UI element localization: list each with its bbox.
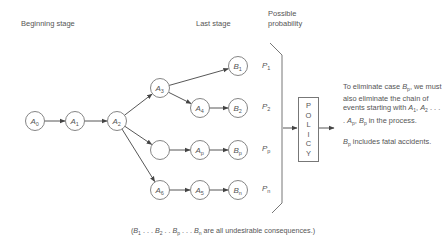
- edge-A2-A3: [125, 94, 153, 115]
- footer-text: . . .: [141, 226, 155, 235]
- note-paragraph-1: To eliminate case Bp, we must also elimi…: [343, 82, 443, 128]
- probability-label-2: P2: [262, 102, 270, 112]
- edge-A2-A6: [122, 129, 155, 181]
- probability-label-1: P1: [262, 61, 270, 71]
- note-text: To eliminate case: [343, 82, 402, 91]
- policy-box: P O L I C Y: [298, 97, 319, 162]
- node-Bn: Bn: [229, 181, 248, 200]
- probability-bracket: [270, 43, 282, 213]
- policy-letter: C: [306, 139, 311, 149]
- node-B2: B2: [229, 99, 248, 118]
- node-A0: A0: [26, 112, 45, 131]
- possible-probability-label-line1: Possible: [268, 9, 296, 18]
- footer-text: are all undesirable consequences.): [202, 226, 315, 235]
- edge-A3-B1: [169, 69, 228, 86]
- nodes-group: A0A1A2A3A4ApA6A5B1B2BpBn: [26, 57, 248, 200]
- policy-letter: O: [306, 111, 312, 121]
- node-A2: A2: [108, 112, 127, 131]
- footer-caption: (B1 . . . B2 . . Bp . . . Bn are all und…: [0, 226, 446, 236]
- policy-letter: Y: [306, 149, 311, 159]
- explanation-note: To eliminate case Bp, we must also elimi…: [343, 82, 443, 159]
- policy-letter: L: [306, 120, 310, 130]
- probability-label-p: Pp: [262, 144, 270, 154]
- last-stage-label: Last stage: [196, 19, 231, 28]
- possible-probability-label-line2: probability: [268, 19, 302, 28]
- policy-letter: I: [307, 130, 309, 140]
- probability-label-n: Pn: [262, 184, 270, 194]
- edge-A2-empty: [125, 126, 152, 144]
- beginning-stage-label: Beginning stage: [21, 19, 75, 28]
- node-empty: [151, 141, 170, 160]
- node-A1: A1: [66, 112, 85, 131]
- edge-A3-A4: [168, 92, 191, 103]
- node-A6: A6: [151, 181, 170, 200]
- node-B1: B1: [229, 57, 248, 76]
- note-paragraph-2: Bp includes fatal accidents.: [343, 137, 443, 149]
- node-Ap: Ap: [191, 141, 210, 160]
- node-A5: A5: [191, 181, 210, 200]
- note-text: includes fatal accidents.: [351, 137, 432, 146]
- node-Bp: Bp: [229, 141, 248, 160]
- node-A3: A3: [151, 79, 170, 98]
- node-A4: A4: [191, 99, 210, 118]
- footer-text: . . .: [180, 226, 194, 235]
- node-circle: [151, 141, 170, 160]
- policy-letter: P: [306, 101, 311, 111]
- probabilities-group: P1P2PpPn: [262, 61, 270, 194]
- footer-text: . .: [162, 226, 172, 235]
- note-text: in the process.: [367, 116, 417, 125]
